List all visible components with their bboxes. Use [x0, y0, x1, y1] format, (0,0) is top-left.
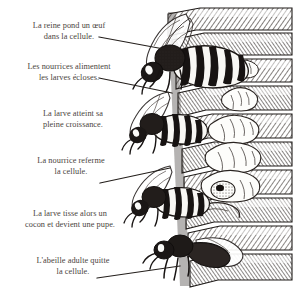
caption-adult-bee-leaves: L'abeille adulte quitte la cellule. [8, 255, 138, 278]
caption-larva-full-growth: La larve atteint sa pleine croissance. [8, 108, 138, 131]
caption-queen-lays-egg-line2: dans la cellule. [4, 31, 134, 42]
caption-larva-full-growth-line2: pleine croissance. [8, 119, 138, 130]
caption-nurse-seals-cell-line2: la cellule. [6, 166, 136, 177]
caption-larva-spins-cocoon: La larve tisse alors un cocon et devient… [0, 208, 140, 231]
caption-queen-lays-egg: La reine pond un œuf dans la cellule. [4, 20, 134, 43]
pupa-in-cocoon [201, 170, 260, 202]
caption-larva-spins-cocoon-line1: La larve tisse alors un [0, 208, 140, 219]
caption-larva-spins-cocoon-line2: cocon et devient une pupe. [0, 219, 140, 230]
caption-larva-full-growth-line1: La larve atteint sa [8, 108, 138, 119]
caption-nurse-seals-cell-line1: La nourrice referme [6, 155, 136, 166]
caption-queen-lays-egg-line1: La reine pond un œuf [4, 20, 134, 31]
honeycomb-cross-section-illustration [0, 0, 295, 288]
caption-nurses-feed-larvae-line1: Les nourrices alimentent [0, 61, 138, 72]
caption-nurses-feed-larvae: Les nourrices alimentent les larves éclo… [0, 61, 138, 84]
caption-nurse-seals-cell: La nourrice referme la cellule. [6, 155, 136, 178]
caption-adult-bee-leaves-line2: la cellule. [8, 266, 138, 277]
caption-adult-bee-leaves-line1: L'abeille adulte quitte [8, 255, 138, 266]
caption-nurses-feed-larvae-line2: les larves écloses. [0, 72, 138, 83]
bee-lifecycle-figure: La reine pond un œuf dans la cellule. Le… [0, 0, 295, 288]
